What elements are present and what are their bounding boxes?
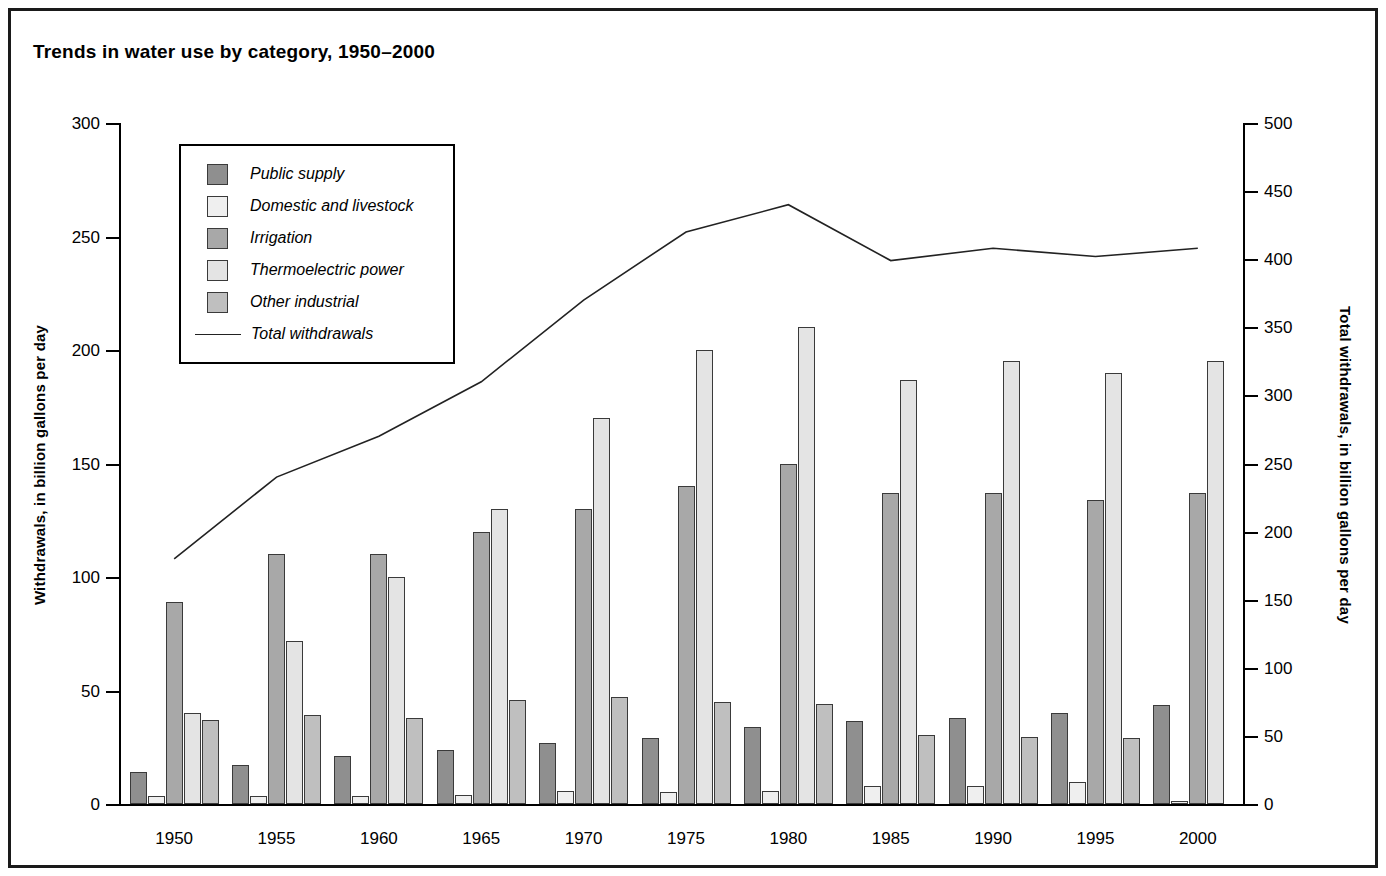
- bar-domestic-and-livestock-1985[interactable]: [864, 786, 881, 804]
- bar-group-1985: [846, 123, 935, 804]
- bar-irrigation-2000[interactable]: [1189, 493, 1206, 804]
- right-tick-label: 450: [1264, 183, 1292, 200]
- bar-other-industrial-1965[interactable]: [509, 700, 526, 804]
- right-tick-mark: [1245, 123, 1258, 125]
- legend-color-swatch: [207, 228, 228, 249]
- left-tick-label: 0: [91, 796, 100, 813]
- bar-public-supply-1970[interactable]: [539, 743, 556, 804]
- bar-irrigation-1955[interactable]: [268, 554, 285, 804]
- bar-public-supply-1980[interactable]: [744, 727, 761, 804]
- left-axis-title: Withdrawals, in billion gallons per day: [31, 324, 48, 604]
- bar-thermoelectric-power-1965[interactable]: [491, 509, 508, 804]
- bar-domestic-and-livestock-1990[interactable]: [967, 786, 984, 804]
- right-tick-mark: [1245, 804, 1258, 806]
- bar-public-supply-1995[interactable]: [1051, 713, 1068, 804]
- legend-label: Domestic and livestock: [250, 197, 414, 215]
- legend-line-swatch: [195, 334, 241, 335]
- x-tick-label-1975: 1975: [667, 829, 705, 849]
- bar-irrigation-1965[interactable]: [473, 532, 490, 804]
- legend-label: Thermoelectric power: [250, 261, 404, 279]
- bar-domestic-and-livestock-1960[interactable]: [352, 796, 369, 804]
- right-axis-title: Total withdrawals, in billion gallons pe…: [1337, 306, 1354, 624]
- bar-domestic-and-livestock-1980[interactable]: [762, 791, 779, 804]
- legend-label: Public supply: [250, 165, 344, 183]
- right-tick-label: 400: [1264, 251, 1292, 268]
- left-tick-mark: [106, 237, 119, 239]
- bar-thermoelectric-power-2000[interactable]: [1207, 361, 1224, 804]
- x-tick-label-2000: 2000: [1179, 829, 1217, 849]
- bar-domestic-and-livestock-1975[interactable]: [660, 792, 677, 804]
- legend-color-swatch: [207, 164, 228, 185]
- bar-public-supply-1985[interactable]: [846, 721, 863, 804]
- bar-irrigation-1960[interactable]: [370, 554, 387, 804]
- bar-other-industrial-1985[interactable]: [918, 735, 935, 804]
- bar-irrigation-1985[interactable]: [882, 493, 899, 804]
- bar-group-1990: [949, 123, 1038, 804]
- right-tick-mark: [1245, 259, 1258, 261]
- bar-other-industrial-1950[interactable]: [202, 720, 219, 804]
- bar-domestic-and-livestock-1950[interactable]: [148, 796, 165, 804]
- bar-thermoelectric-power-1980[interactable]: [798, 327, 815, 804]
- right-tick-label: 0: [1264, 796, 1273, 813]
- right-tick-mark: [1245, 191, 1258, 193]
- bar-irrigation-1950[interactable]: [166, 602, 183, 804]
- bar-other-industrial-1995[interactable]: [1123, 738, 1140, 804]
- bar-public-supply-1990[interactable]: [949, 718, 966, 804]
- bar-public-supply-1960[interactable]: [334, 756, 351, 804]
- left-tick-label: 250: [72, 228, 100, 245]
- legend-color-swatch: [207, 260, 228, 281]
- left-tick-mark: [106, 577, 119, 579]
- bar-public-supply-1955[interactable]: [232, 765, 249, 804]
- right-tick-label: 50: [1264, 727, 1283, 744]
- bar-irrigation-1980[interactable]: [780, 464, 797, 805]
- bar-other-industrial-1955[interactable]: [304, 715, 321, 804]
- bar-other-industrial-1980[interactable]: [816, 704, 833, 804]
- bar-public-supply-1975[interactable]: [642, 738, 659, 804]
- bar-domestic-and-livestock-1995[interactable]: [1069, 782, 1086, 804]
- legend-color-swatch: [207, 292, 228, 313]
- bar-thermoelectric-power-1995[interactable]: [1105, 373, 1122, 804]
- legend-item-public-supply[interactable]: Public supply: [181, 158, 453, 190]
- bar-public-supply-1950[interactable]: [130, 772, 147, 804]
- x-tick-label-1985: 1985: [872, 829, 910, 849]
- bar-thermoelectric-power-1990[interactable]: [1003, 361, 1020, 804]
- right-tick-label: 500: [1264, 115, 1292, 132]
- x-tick-label-1990: 1990: [974, 829, 1012, 849]
- right-tick-label: 350: [1264, 319, 1292, 336]
- bar-domestic-and-livestock-1955[interactable]: [250, 796, 267, 804]
- bar-thermoelectric-power-1970[interactable]: [593, 418, 610, 804]
- legend-item-irrigation[interactable]: Irrigation: [181, 222, 453, 254]
- legend-item-domestic-and-livestock[interactable]: Domestic and livestock: [181, 190, 453, 222]
- legend-item-other-industrial[interactable]: Other industrial: [181, 286, 453, 318]
- legend-label: Other industrial: [250, 293, 359, 311]
- bar-public-supply-1965[interactable]: [437, 750, 454, 804]
- bar-domestic-and-livestock-1970[interactable]: [557, 791, 574, 804]
- left-tick-label: 300: [72, 115, 100, 132]
- bar-irrigation-1970[interactable]: [575, 509, 592, 804]
- bar-thermoelectric-power-1975[interactable]: [696, 350, 713, 804]
- bar-thermoelectric-power-1960[interactable]: [388, 577, 405, 804]
- left-tick-mark: [106, 464, 119, 466]
- bar-domestic-and-livestock-1965[interactable]: [455, 795, 472, 804]
- bar-public-supply-2000[interactable]: [1153, 705, 1170, 804]
- bar-domestic-and-livestock-2000[interactable]: [1171, 801, 1188, 804]
- bar-group-1995: [1051, 123, 1140, 804]
- bar-thermoelectric-power-1985[interactable]: [900, 380, 917, 804]
- bar-thermoelectric-power-1950[interactable]: [184, 713, 201, 804]
- x-tick-label-1955: 1955: [258, 829, 296, 849]
- x-tick-label-1980: 1980: [769, 829, 807, 849]
- left-tick-label: 50: [81, 682, 100, 699]
- bar-thermoelectric-power-1955[interactable]: [286, 641, 303, 804]
- x-tick-label-1965: 1965: [462, 829, 500, 849]
- legend-item-thermoelectric-power[interactable]: Thermoelectric power: [181, 254, 453, 286]
- legend-item-total-withdrawals[interactable]: Total withdrawals: [181, 318, 453, 350]
- bar-other-industrial-1990[interactable]: [1021, 737, 1038, 804]
- bar-other-industrial-1975[interactable]: [714, 702, 731, 804]
- right-tick-mark: [1245, 395, 1258, 397]
- bar-other-industrial-1960[interactable]: [406, 718, 423, 804]
- bar-irrigation-1995[interactable]: [1087, 500, 1104, 804]
- bar-other-industrial-1970[interactable]: [611, 697, 628, 804]
- bar-irrigation-1990[interactable]: [985, 493, 1002, 804]
- bar-irrigation-1975[interactable]: [678, 486, 695, 804]
- chart-title: Trends in water use by category, 1950–20…: [33, 41, 435, 63]
